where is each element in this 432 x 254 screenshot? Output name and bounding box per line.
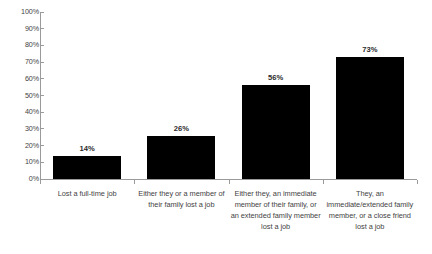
x-axis-tick-mark: [134, 180, 135, 184]
y-axis-tick-mark: [40, 112, 44, 113]
y-axis-tick: 10%: [0, 157, 46, 167]
bar: [336, 57, 404, 179]
x-axis-tick-mark: [229, 180, 230, 184]
y-axis-tick: 80%: [0, 40, 46, 50]
y-axis-tick-label: 30%: [6, 124, 39, 134]
y-axis-tick-label: 60%: [6, 74, 39, 84]
y-axis-tick: 90%: [0, 24, 46, 34]
y-axis-tick: 50%: [0, 91, 46, 101]
bar-value-label: 26%: [151, 124, 211, 133]
bar-value-label: 56%: [246, 73, 306, 82]
y-axis-tick-mark: [40, 28, 44, 29]
y-axis-tick-mark: [40, 162, 44, 163]
y-axis-tick-label: 20%: [6, 141, 39, 151]
y-axis-tick-mark: [40, 62, 44, 63]
y-axis-tick: 70%: [0, 57, 46, 67]
y-axis-tick-label: 50%: [6, 91, 39, 101]
y-axis-tick: 100%: [0, 7, 46, 17]
y-axis-tick: 30%: [0, 124, 46, 134]
y-axis-tick-mark: [40, 128, 44, 129]
bar: [147, 136, 215, 179]
x-axis-category-label: They, an immediate/extended family membe…: [325, 188, 415, 232]
y-axis-tick-label: 80%: [6, 40, 39, 50]
y-axis-tick: 20%: [0, 141, 46, 151]
bar-chart: 0%10%20%30%40%50%60%70%80%90%100% 14%26%…: [0, 0, 432, 254]
x-axis-tick-mark: [417, 180, 418, 184]
y-axis-tick: 40%: [0, 107, 46, 117]
bar-value-label: 14%: [57, 144, 117, 153]
x-axis-category-label: Either they, an immediate member of thei…: [231, 188, 321, 232]
x-axis-tick-mark: [40, 180, 41, 184]
x-axis-tick-mark: [323, 180, 324, 184]
y-axis-tick: 60%: [0, 74, 46, 84]
y-axis-tick-mark: [40, 12, 44, 13]
y-axis-tick-label: 100%: [6, 7, 39, 17]
y-axis-tick-mark: [40, 45, 44, 46]
y-axis-tick-label: 40%: [6, 107, 39, 117]
bar: [53, 156, 121, 179]
x-axis-category-label: Either they or a member of their family …: [136, 188, 226, 210]
y-axis-tick-label: 70%: [6, 57, 39, 67]
bar: [242, 85, 310, 179]
y-axis-tick-mark: [40, 95, 44, 96]
y-axis-tick-mark: [40, 78, 44, 79]
x-axis-category-label: Lost a full-time job: [42, 188, 132, 199]
y-axis-tick-mark: [40, 145, 44, 146]
y-axis-tick-label: 90%: [6, 24, 39, 34]
y-axis-tick-label: 0%: [6, 174, 39, 184]
y-axis-tick-label: 10%: [6, 157, 39, 167]
bar-value-label: 73%: [340, 45, 400, 54]
